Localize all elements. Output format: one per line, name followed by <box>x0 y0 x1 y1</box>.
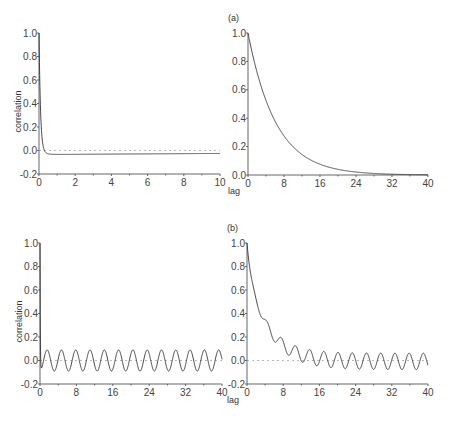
x-tick-label: 16 <box>107 387 119 398</box>
y-tick-label: 0.8 <box>231 261 245 272</box>
x-tick-label: 6 <box>145 177 151 188</box>
autocorrelation-curve <box>39 33 220 154</box>
y-tick-label: -0.2 <box>21 379 39 390</box>
figure-canvas: -0.20.00.20.40.60.81.00246810correlation… <box>0 0 451 422</box>
y-axis-title: correlation <box>13 90 23 132</box>
x-tick-label: 0 <box>37 387 43 398</box>
y-tick-label: 0.2 <box>23 122 37 133</box>
chart-top-right: 0.00.20.40.60.81.00816243240lag(a) <box>228 13 434 196</box>
x-tick-label: 8 <box>281 178 287 189</box>
autocorrelation-curve <box>40 243 222 371</box>
x-tick-label: 4 <box>109 177 115 188</box>
y-tick-label: 0.6 <box>231 285 245 296</box>
x-tick-label: 32 <box>386 178 398 189</box>
panel-label: (b) <box>227 223 238 233</box>
y-tick-label: 1.0 <box>231 238 245 249</box>
y-tick-label: 0.2 <box>231 332 245 343</box>
y-tick-label: 1.0 <box>23 28 37 39</box>
chart-bottom-left: -0.20.00.20.40.60.81.00816243240correlat… <box>14 238 228 399</box>
y-tick-label: 0.2 <box>24 332 38 343</box>
y-tick-label: -0.2 <box>228 379 246 390</box>
x-tick-label: 2 <box>72 177 78 188</box>
chart-top-left: -0.20.00.20.40.60.81.00246810correlation <box>13 28 226 189</box>
y-tick-label: 0.0 <box>231 355 245 366</box>
y-tick-label: -0.2 <box>20 169 38 180</box>
x-axis-title: lag <box>228 186 240 196</box>
x-tick-label: 24 <box>350 387 362 398</box>
autocorrelation-curve <box>247 243 428 370</box>
y-tick-label: 0.4 <box>231 308 245 319</box>
y-tick-label: 0.8 <box>23 51 37 62</box>
y-tick-label: 0.4 <box>24 308 38 319</box>
x-axis-title: lag <box>227 395 239 405</box>
x-tick-label: 0 <box>36 177 42 188</box>
y-axis-title: correlation <box>14 300 24 342</box>
panel-label: (a) <box>228 13 239 23</box>
y-tick-label: 0.8 <box>232 56 246 67</box>
y-tick-label: 0.0 <box>24 355 38 366</box>
x-tick-label: 40 <box>422 387 434 398</box>
y-tick-label: 1.0 <box>24 238 38 249</box>
y-tick-label: 0.6 <box>23 75 37 86</box>
x-tick-label: 8 <box>181 177 187 188</box>
x-tick-label: 8 <box>280 387 286 398</box>
y-tick-label: 0.4 <box>23 98 37 109</box>
x-tick-label: 10 <box>214 177 226 188</box>
x-tick-label: 40 <box>422 178 434 189</box>
y-tick-label: 0.2 <box>232 141 246 152</box>
x-tick-label: 8 <box>74 387 80 398</box>
y-tick-label: 0.6 <box>232 84 246 95</box>
x-tick-label: 24 <box>350 178 362 189</box>
y-tick-label: 0.6 <box>24 285 38 296</box>
x-tick-label: 16 <box>314 387 326 398</box>
chart-bottom-right: -0.20.00.20.40.60.81.00816243240lag(b) <box>227 223 434 405</box>
y-tick-label: 0.8 <box>24 261 38 272</box>
y-tick-label: 1.0 <box>232 28 246 39</box>
y-tick-label: 0.4 <box>232 113 246 124</box>
autocorrelation-curve <box>248 33 428 175</box>
x-tick-label: 0 <box>245 178 251 189</box>
x-tick-label: 32 <box>386 387 398 398</box>
y-tick-label: 0.0 <box>23 145 37 156</box>
x-tick-label: 24 <box>144 387 156 398</box>
x-tick-label: 0 <box>244 387 250 398</box>
x-tick-label: 32 <box>180 387 192 398</box>
x-tick-label: 16 <box>314 178 326 189</box>
